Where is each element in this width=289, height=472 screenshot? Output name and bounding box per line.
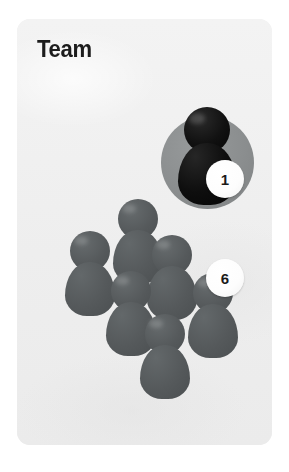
leader-count-badge[interactable]: 1 <box>206 160 244 198</box>
team-card: Team <box>17 19 272 445</box>
member-figure-body <box>140 345 190 399</box>
members-count-badge[interactable]: 6 <box>206 259 244 297</box>
member-figure[interactable] <box>139 314 191 398</box>
infographic-canvas: Team <box>0 0 289 472</box>
page-title: Team <box>37 35 92 63</box>
member-figure-body <box>188 304 238 358</box>
